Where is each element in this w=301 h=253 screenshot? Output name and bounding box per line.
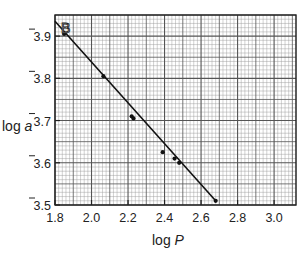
- data-point: [172, 156, 176, 160]
- x-axis-title-prefix: log: [152, 232, 175, 248]
- chart-root: 1.82.02.22.42.62.83.0 3.53.63.73.83.9 B …: [0, 0, 301, 253]
- data-point: [177, 161, 181, 165]
- x-tick-label: 2.4: [156, 211, 173, 225]
- x-tick-label: 2.0: [83, 211, 100, 225]
- data-point: [161, 150, 165, 154]
- y-tick-label: 3.6: [34, 157, 51, 171]
- panel-label: B: [61, 20, 70, 36]
- data-point: [214, 199, 218, 203]
- x-tick-label: 2.2: [119, 211, 136, 225]
- y-tick-label: 3.9: [34, 30, 51, 44]
- y-tick-label: 3.8: [34, 72, 51, 86]
- y-axis-title-prefix: log: [2, 118, 25, 134]
- x-axis-title: log P: [152, 232, 185, 248]
- x-axis-title-var: P: [175, 232, 185, 248]
- y-axis-title: log a: [2, 118, 33, 134]
- x-tick-label: 2.8: [229, 211, 246, 225]
- x-tick-label: 1.8: [46, 211, 63, 225]
- y-tick-label: 3.5: [34, 199, 51, 213]
- data-point: [131, 116, 135, 120]
- x-axis-ticks: 1.82.02.22.42.62.83.0: [46, 200, 283, 225]
- y-axis-title-var: a: [25, 118, 33, 134]
- x-tick-label: 2.6: [192, 211, 209, 225]
- y-tick-label: 3.7: [34, 115, 51, 129]
- x-tick-label: 3.0: [265, 211, 282, 225]
- data-point: [101, 74, 105, 78]
